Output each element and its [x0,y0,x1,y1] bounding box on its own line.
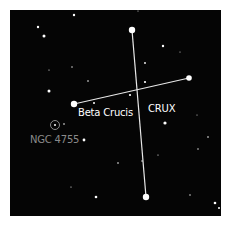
star [70,186,71,187]
top-star [129,27,135,33]
vertical-line [132,30,146,197]
star [83,139,86,142]
star [48,69,49,70]
star [197,148,198,149]
constellation-label: CRUX [148,104,175,114]
star [214,202,217,205]
star [141,160,142,161]
star [37,26,39,28]
horizontal-line [74,78,189,104]
star [117,162,119,164]
star [197,115,198,116]
cluster-marker-icon [51,121,60,130]
star [218,207,220,209]
star [48,90,51,93]
star [144,81,146,83]
cluster-label: NGC 4755 [30,135,79,145]
star [144,62,146,64]
cluster-center [54,124,56,126]
star [157,154,158,155]
star [138,11,139,12]
star [63,123,65,125]
star [71,66,72,67]
star [87,80,89,82]
bottom-star [143,194,149,200]
beta-crucis-label: Beta Crucis [78,108,133,118]
right-star [186,75,192,81]
star [163,121,166,124]
star [189,194,190,195]
star [162,45,164,47]
star [43,35,46,38]
star [180,52,181,53]
star [129,94,131,96]
star [95,196,98,199]
star [93,102,95,104]
star [73,14,75,16]
beta-crucis-star [71,101,77,107]
star [207,136,209,138]
